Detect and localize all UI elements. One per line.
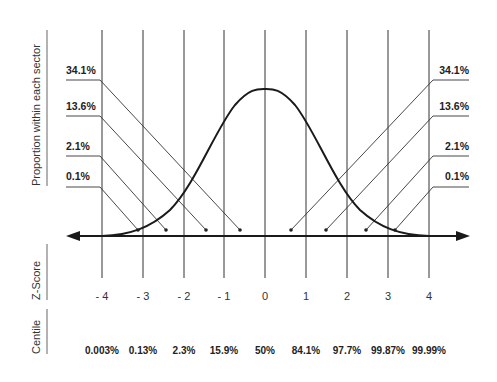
zscore-tick: - 3 (128, 290, 158, 302)
zscore-tick: 0 (250, 290, 280, 302)
left-leader-dots (136, 228, 242, 232)
right-proportion-label: 2.1% (445, 140, 469, 152)
centile-value: 99.87% (366, 345, 410, 356)
centile-value: 50% (243, 345, 287, 356)
left-arrow-icon (66, 231, 80, 241)
right-proportion-label: 34.1% (439, 64, 469, 76)
centile-value: 0.13% (121, 345, 165, 356)
zscore-tick: 4 (414, 290, 444, 302)
zscore-tick: - 2 (169, 290, 199, 302)
centile-value: 84.1% (284, 345, 328, 356)
right-leader-dots (289, 228, 397, 232)
sd-gridlines (102, 30, 429, 278)
zscore-tick: 3 (373, 290, 403, 302)
left-proportion-label: 2.1% (66, 140, 90, 152)
proportion-axis-label: Proportion within each sector (30, 44, 42, 186)
zscore-tick: - 1 (209, 290, 239, 302)
centile-value: 15.9% (202, 345, 246, 356)
zscore-tick: 1 (291, 290, 321, 302)
centile-value: 0.003% (80, 345, 124, 356)
left-proportion-label: 34.1% (66, 64, 96, 76)
zscore-tick: 2 (332, 290, 362, 302)
centile-axis-label: Centile (30, 320, 42, 354)
right-proportion-label: 13.6% (439, 100, 469, 112)
right-proportion-label: 0.1% (445, 170, 469, 182)
left-proportion-label: 0.1% (66, 170, 90, 182)
zscore-tick: - 4 (87, 290, 117, 302)
right-arrow-icon (456, 231, 470, 241)
normal-curve-diagram (0, 0, 497, 382)
centile-value: 97.7% (325, 345, 369, 356)
zscore-axis-label: Z-Score (30, 261, 42, 300)
centile-value: 2.3% (162, 345, 206, 356)
centile-value: 99.99% (407, 345, 451, 356)
left-proportion-label: 13.6% (66, 100, 96, 112)
